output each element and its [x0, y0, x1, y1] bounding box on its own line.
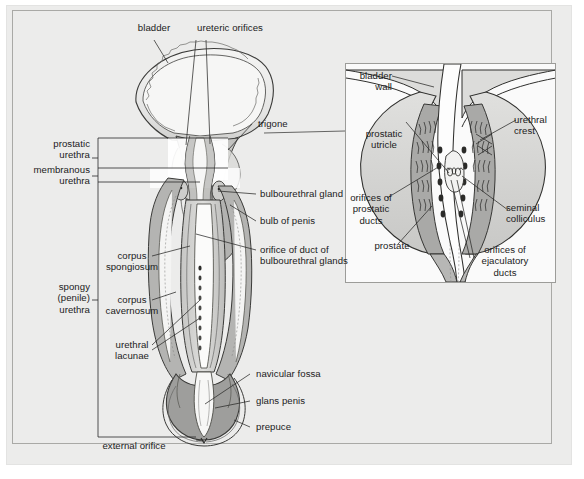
- label-urethral-crest: urethral crest: [514, 114, 560, 137]
- label-prostatic-urethra: prostatic urethra: [16, 138, 90, 161]
- inset-artwork: [0, 0, 584, 479]
- label-prepuce: prepuce: [256, 421, 322, 432]
- label-bulb-of-penis: bulb of penis: [260, 215, 350, 226]
- label-spongy-urethra: spongy (penile) urethra: [24, 281, 90, 315]
- label-external-orifice: external orifice: [78, 440, 190, 451]
- inset-connector-line: [264, 131, 345, 133]
- label-corpus-cavernosum: corpus cavernosum: [98, 294, 166, 317]
- label-bladder: bladder: [118, 22, 190, 33]
- label-prostate: prostate: [364, 240, 420, 251]
- label-navicular-fossa: navicular fossa: [256, 368, 356, 379]
- label-prostatic-utricle: prostatic utricle: [356, 128, 412, 151]
- label-seminal-colliculus: seminal colliculus: [506, 202, 558, 225]
- label-membranous-urethra: membranous urethra: [10, 164, 90, 187]
- label-glans-penis: glans penis: [256, 395, 336, 406]
- label-bladder-wall: bladder wall: [344, 70, 392, 93]
- label-corpus-spongiosum: corpus spongiosum: [98, 250, 166, 273]
- label-orifices-of-ejaculatory-ducts: orifices of ejaculatory ducts: [470, 244, 540, 278]
- label-orifices-of-prostatic-ducts: orifices of prostatic ducts: [340, 192, 402, 226]
- figure-root: bladder ureteric orifices trigone prosta…: [0, 0, 584, 479]
- label-ureteric-orifices: ureteric orifices: [182, 22, 278, 33]
- label-urethral-lacunae: urethral lacunae: [102, 339, 162, 362]
- label-trigone: trigone: [258, 118, 318, 129]
